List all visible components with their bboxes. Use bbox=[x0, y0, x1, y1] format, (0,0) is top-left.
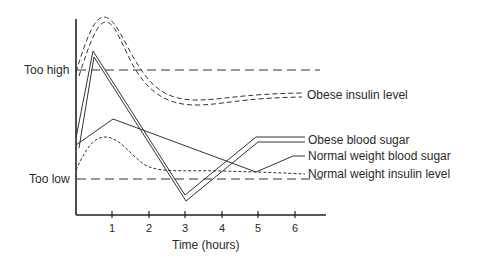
legend-normal-blood-sugar: Normal weight blood sugar bbox=[308, 149, 451, 163]
too-low-label: Too low bbox=[29, 172, 70, 186]
x-tick-label: 2 bbox=[142, 222, 156, 234]
too-high-label: Too high bbox=[24, 63, 69, 77]
x-tick-label: 1 bbox=[105, 222, 119, 234]
x-tick-label: 3 bbox=[178, 222, 192, 234]
x-tick-label: 5 bbox=[251, 222, 265, 234]
legend-obese-insulin: Obese insulin level bbox=[307, 88, 408, 102]
x-tick-label: 6 bbox=[288, 222, 302, 234]
legend-normal-insulin: Normal weight insulin level bbox=[308, 167, 450, 181]
series-normal-blood-sugar bbox=[76, 119, 305, 172]
legend-obese-blood-sugar: Obese blood sugar bbox=[308, 133, 409, 147]
series-normal-insulin bbox=[76, 137, 305, 174]
x-tick-label: 4 bbox=[215, 222, 229, 234]
x-axis-title: Time (hours) bbox=[172, 238, 240, 252]
series-obese-insulin bbox=[76, 17, 302, 105]
